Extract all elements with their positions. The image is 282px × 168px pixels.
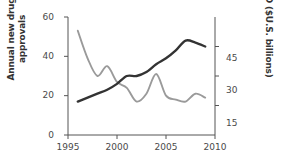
- axis-lines: [68, 17, 215, 135]
- plot-area: [0, 0, 282, 168]
- series-line-rd: [78, 40, 205, 101]
- x-axis-ticks: [68, 135, 215, 139]
- chart-container: Annual new drug approvals R&D ($U.S. bil…: [0, 0, 282, 168]
- y-axis-right-ticks: [215, 47, 219, 106]
- y-axis-left-ticks: [64, 17, 68, 135]
